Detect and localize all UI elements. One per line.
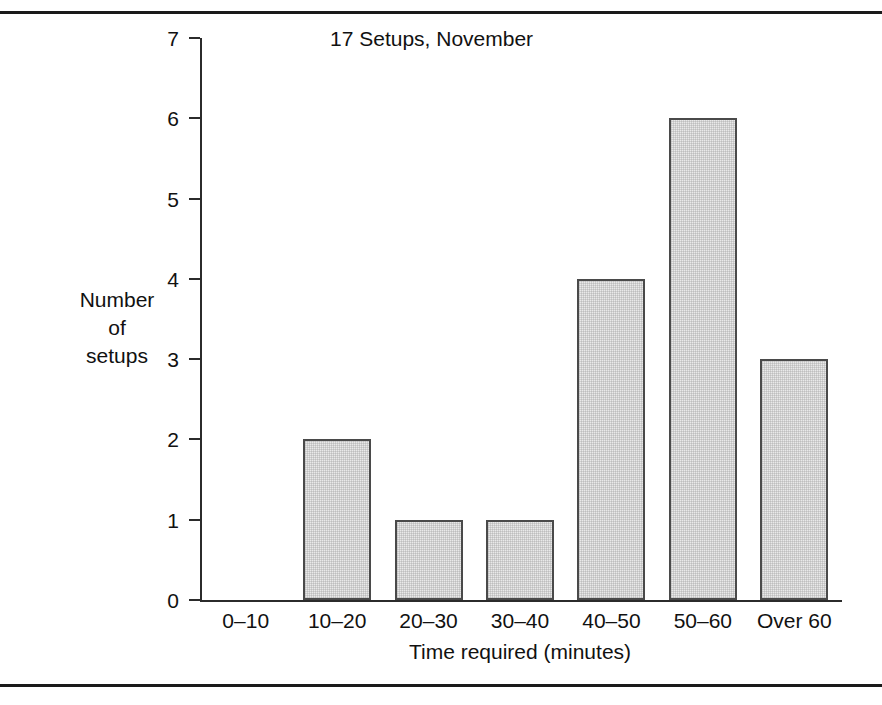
bar bbox=[669, 118, 737, 600]
y-axis-tick: 5 bbox=[189, 198, 200, 200]
figure-page: 17 Setups, November Number of setups 012… bbox=[0, 0, 882, 705]
y-axis-tick-label: 7 bbox=[167, 28, 179, 49]
x-axis-tick-label: Over 60 bbox=[749, 610, 840, 631]
y-axis-tick-label: 5 bbox=[167, 188, 179, 209]
x-axis-tick-label: 20–30 bbox=[383, 610, 474, 631]
x-axis-label: Time required (minutes) bbox=[200, 641, 840, 662]
x-axis-tick-label: 40–50 bbox=[566, 610, 657, 631]
bar bbox=[303, 439, 371, 600]
y-axis-label-line-3: setups bbox=[58, 342, 176, 370]
x-axis-tick-label: 30–40 bbox=[474, 610, 565, 631]
y-axis-tick: 6 bbox=[189, 117, 200, 119]
bar bbox=[395, 520, 463, 600]
y-axis-label: Number of setups bbox=[58, 286, 176, 370]
x-axis-tick-label: 50–60 bbox=[657, 610, 748, 631]
y-axis-label-line-1: Number bbox=[58, 286, 176, 314]
y-axis-tick-label: 0 bbox=[167, 590, 179, 611]
y-axis-line bbox=[200, 38, 202, 600]
x-axis-tick-label: 10–20 bbox=[291, 610, 382, 631]
y-axis-tick: 3 bbox=[189, 358, 200, 360]
plot-area: 01234567 0–1010–2020–3030–4040–5050–60Ov… bbox=[200, 38, 840, 600]
x-axis-tick-label: 0–10 bbox=[200, 610, 291, 631]
y-axis-tick: 4 bbox=[189, 278, 200, 280]
bar bbox=[577, 279, 645, 600]
bar bbox=[760, 359, 828, 600]
y-axis-tick-label: 2 bbox=[167, 429, 179, 450]
y-axis-tick: 2 bbox=[189, 438, 200, 440]
figure-top-rule bbox=[0, 11, 882, 14]
y-axis-label-line-2: of bbox=[58, 314, 176, 342]
y-axis-tick-label: 4 bbox=[167, 268, 179, 289]
figure-bottom-rule bbox=[0, 684, 882, 687]
y-axis-tick-label: 6 bbox=[167, 108, 179, 129]
bar bbox=[486, 520, 554, 600]
y-axis-tick: 0 bbox=[189, 599, 200, 601]
y-axis-tick-label: 3 bbox=[167, 349, 179, 370]
x-axis-line bbox=[200, 600, 842, 602]
y-axis-tick: 7 bbox=[189, 37, 200, 39]
y-axis-tick: 1 bbox=[189, 519, 200, 521]
y-axis-tick-label: 1 bbox=[167, 509, 179, 530]
